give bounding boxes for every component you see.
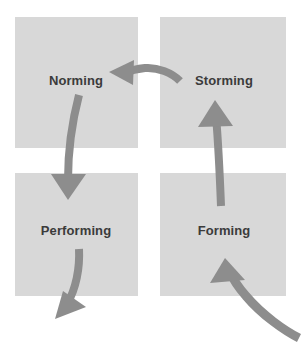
- stage-label-storming: Storming: [195, 73, 253, 88]
- stage-label-performing: Performing: [41, 223, 111, 238]
- tuckman-cycle-diagram: Norming Storming Performing Forming: [0, 0, 301, 348]
- stage-label-norming: Norming: [49, 73, 103, 88]
- stage-label-forming: Forming: [198, 223, 251, 238]
